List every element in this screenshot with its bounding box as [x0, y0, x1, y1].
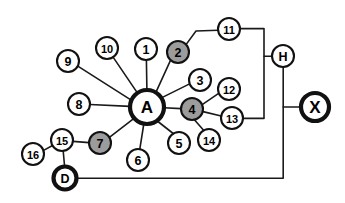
edge-3-A [161, 84, 189, 98]
network-diagram: AXDH12345678910111213141516 [0, 0, 345, 203]
node-14-label: 14 [203, 135, 216, 147]
node-16-label: 16 [27, 149, 39, 161]
edge-10-A [114, 58, 138, 93]
node-2-label: 2 [175, 46, 182, 60]
node-12-label: 12 [223, 84, 235, 96]
node-3[interactable]: 3 [189, 69, 211, 91]
node-2[interactable]: 2 [167, 41, 189, 63]
node-12[interactable]: 12 [218, 78, 240, 100]
node-1-label: 1 [143, 43, 150, 57]
edge-15-D [63, 151, 64, 167]
node-X[interactable]: X [301, 93, 329, 121]
node-11[interactable]: 11 [218, 18, 240, 40]
edge-13-H [243, 56, 264, 118]
node-15[interactable]: 15 [51, 129, 73, 151]
node-H-label: H [278, 50, 287, 64]
node-13-label: 13 [226, 113, 238, 125]
node-4[interactable]: 4 [181, 98, 203, 120]
node-10-label: 10 [101, 43, 113, 55]
edge-11-H [240, 29, 272, 57]
edge-2-A [155, 60, 170, 94]
node-3-label: 3 [197, 74, 204, 88]
node-4-label: 4 [189, 103, 196, 117]
node-8-label: 8 [76, 98, 83, 112]
node-D-label: D [60, 172, 69, 186]
node-5[interactable]: 5 [168, 132, 190, 154]
node-5-label: 5 [176, 137, 183, 151]
node-A[interactable]: A [130, 90, 164, 124]
node-14[interactable]: 14 [198, 129, 220, 151]
node-6[interactable]: 6 [127, 149, 149, 171]
diagram-canvas: AXDH12345678910111213141516 [0, 0, 345, 203]
edge-7-A [109, 118, 134, 137]
node-1[interactable]: 1 [135, 38, 157, 60]
edge-14-4 [195, 120, 204, 130]
node-9-label: 9 [65, 55, 72, 69]
node-16[interactable]: 16 [22, 143, 44, 165]
edge-2-11 [186, 30, 218, 44]
node-10[interactable]: 10 [96, 37, 118, 59]
edge-1-A [146, 60, 147, 90]
node-8[interactable]: 8 [68, 93, 90, 115]
node-9[interactable]: 9 [57, 50, 79, 72]
node-11-label: 11 [223, 24, 235, 36]
node-A-label: A [141, 98, 153, 117]
node-7-label: 7 [97, 137, 104, 151]
edge-12-4 [202, 93, 219, 104]
edge-4-A [164, 108, 181, 109]
node-7[interactable]: 7 [89, 132, 111, 154]
node-6-label: 6 [135, 154, 142, 168]
node-D[interactable]: D [54, 167, 77, 190]
edge-H-X [283, 67, 301, 107]
edge-13-4 [203, 112, 221, 116]
node-X-label: X [309, 98, 321, 117]
node-15-label: 15 [56, 135, 68, 147]
node-13[interactable]: 13 [221, 107, 243, 129]
edge-15-7 [73, 141, 89, 142]
edge-8-A [90, 105, 130, 107]
edge-6-A [140, 124, 144, 149]
node-H[interactable]: H [272, 45, 294, 67]
